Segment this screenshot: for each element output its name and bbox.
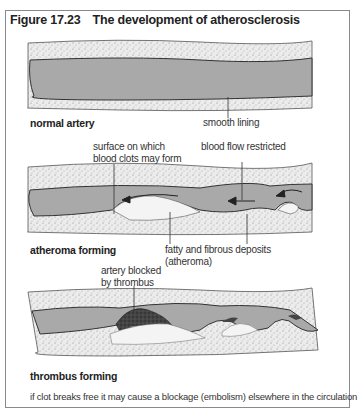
label-fatty-deposits: fatty and fibrous deposits [165, 244, 271, 256]
label-artery-blocked-line2: by thrombus [101, 277, 154, 289]
label-smooth-lining: smooth lining [203, 117, 259, 129]
atherosclerosis-illustration [0, 0, 358, 420]
label-blood-flow-restricted: blood flow restricted [201, 141, 286, 153]
label-clot-surface-line2: blood clots may form [93, 153, 181, 165]
panel-caption-thrombus-forming: thrombus forming [30, 370, 117, 382]
label-clot-surface-line1: surface on which [93, 141, 165, 153]
normal-artery-diagram [27, 40, 312, 118]
label-atheroma: (atheroma) [165, 256, 212, 268]
atheroma-diagram [27, 162, 312, 244]
footnote: if clot breaks free it may cause a block… [30, 391, 357, 403]
panel-caption-normal-artery: normal artery [30, 117, 95, 129]
panel-caption-atheroma-forming: atheroma forming [30, 244, 116, 256]
label-artery-blocked-line1: artery blocked [101, 265, 161, 277]
thrombus-diagram [28, 286, 318, 356]
